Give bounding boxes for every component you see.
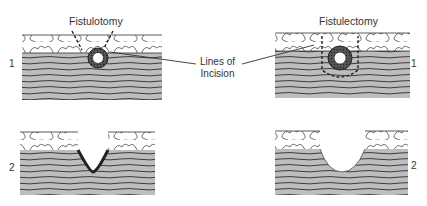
fistulotomy-step1-number: 1 (9, 59, 15, 69)
fistulectomy-title: Fistulectomy (319, 16, 378, 27)
fistulectomy-step2-illustration (275, 131, 408, 195)
lines-of-incision-label: Lines of Incision (200, 56, 235, 79)
fistulotomy-step2-illustration (20, 132, 155, 195)
fistulectomy-step1-illustration (275, 33, 410, 98)
diagram-canvas (0, 0, 427, 206)
fistulotomy-title: Fistulotomy (69, 16, 123, 27)
fistulectomy-step1-number: 1 (411, 59, 417, 69)
callout-line1: Lines of (200, 56, 235, 68)
fistulotomy-step2-number: 2 (9, 163, 15, 173)
fistulotomy-step1-illustration (22, 31, 162, 100)
fistulectomy-step2-number: 2 (411, 161, 417, 171)
callout-line2: Incision (200, 68, 235, 80)
